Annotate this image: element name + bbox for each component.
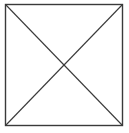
square-diagonals-diagram [0,0,129,133]
